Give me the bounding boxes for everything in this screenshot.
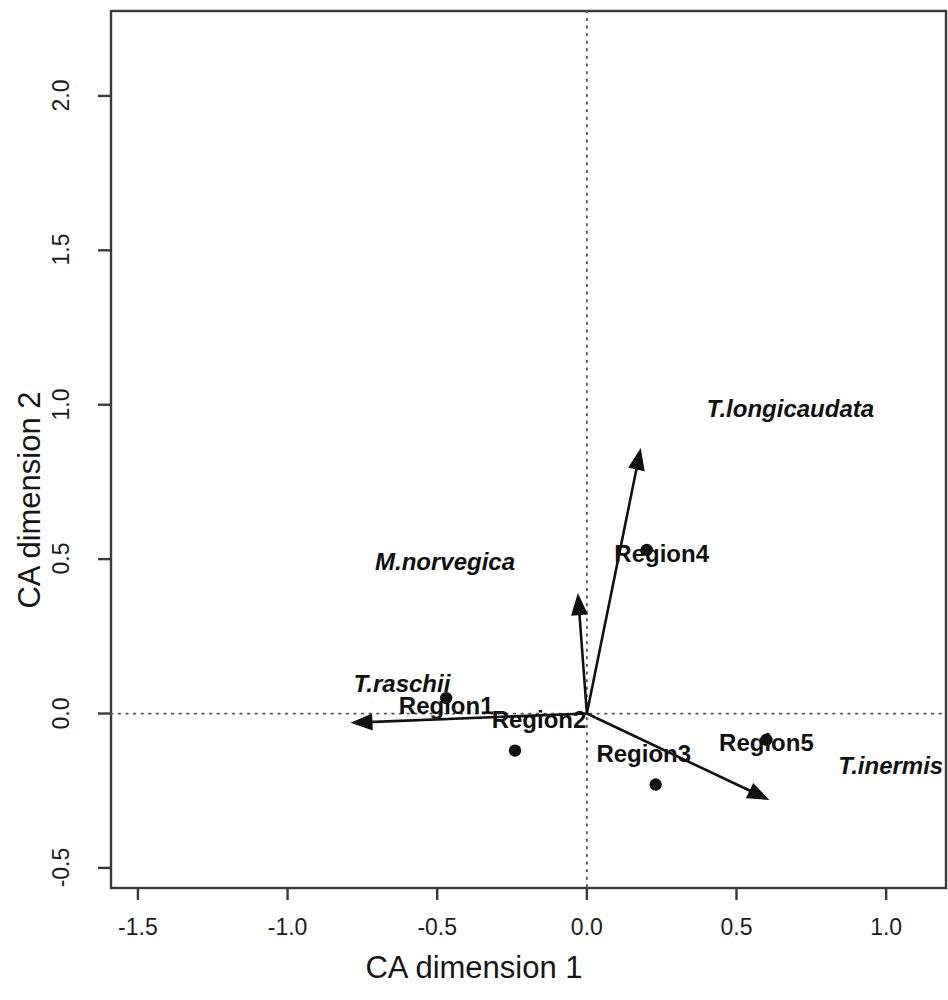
y-tick-label: 2.0 <box>48 60 75 130</box>
plot-canvas <box>0 0 948 1000</box>
x-tick-label: 0.0 <box>571 914 603 941</box>
species-label: T.raschii <box>353 670 450 698</box>
x-tick-label: -0.5 <box>417 914 457 941</box>
species-label: T.longicaudata <box>707 395 875 423</box>
region-label: Region3 <box>596 740 691 768</box>
region-label: Region2 <box>492 706 587 734</box>
reference-lines <box>111 11 946 888</box>
x-axis-title: CA dimension 1 <box>0 950 948 986</box>
y-tick-label: -0.5 <box>48 832 75 902</box>
species-arrows <box>350 448 769 800</box>
y-tick-label: 0.5 <box>48 524 75 594</box>
region-label: Region4 <box>614 540 709 568</box>
y-tick-label: 1.0 <box>48 369 75 439</box>
species-label: T.inermis <box>838 752 943 780</box>
species-label: M.norvegica <box>375 548 515 576</box>
y-tick-label: 1.5 <box>48 215 75 285</box>
ca-biplot-figure: CA dimension 1 CA dimension 2 -1.5-1.0-0… <box>0 0 948 1000</box>
x-tick-label: 1.0 <box>870 914 902 941</box>
region-label: Region5 <box>719 729 814 757</box>
y-tick-label: 0.0 <box>48 678 75 748</box>
x-tick-label: -1.5 <box>118 914 158 941</box>
axis-ticks <box>98 96 886 900</box>
x-tick-label: -1.0 <box>268 914 308 941</box>
x-tick-label: 0.5 <box>721 914 753 941</box>
plot-frame <box>111 11 946 888</box>
